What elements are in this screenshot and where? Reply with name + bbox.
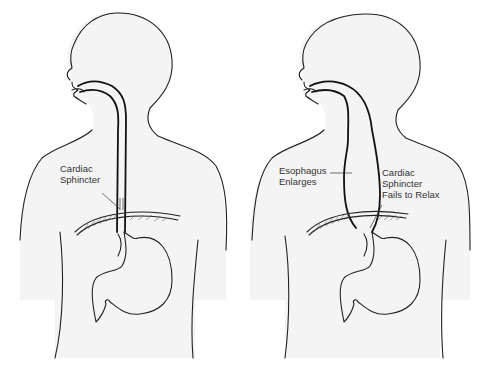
label-line: Fails to Relax xyxy=(382,189,440,200)
figure-normal: Cardiac Sphincter xyxy=(0,0,240,377)
label-line: Enlarges xyxy=(279,176,327,187)
figure-achalasia: Esophagus Enlarges Cardiac Sphincter Fai… xyxy=(240,0,479,377)
label-line: Esophagus xyxy=(279,165,327,176)
label-line: Cardiac xyxy=(60,163,100,174)
label-cardiac-sphincter-fails: Cardiac Sphincter Fails to Relax xyxy=(382,167,440,200)
label-line: Cardiac xyxy=(382,167,440,178)
label-esophagus-enlarges: Esophagus Enlarges xyxy=(279,165,327,187)
achalasia-anatomy-drawing xyxy=(240,0,479,377)
normal-anatomy-drawing xyxy=(0,0,240,377)
label-line: Sphincter xyxy=(60,174,100,185)
label-line: Sphincter xyxy=(382,178,440,189)
label-cardiac-sphincter-normal: Cardiac Sphincter xyxy=(60,163,100,185)
